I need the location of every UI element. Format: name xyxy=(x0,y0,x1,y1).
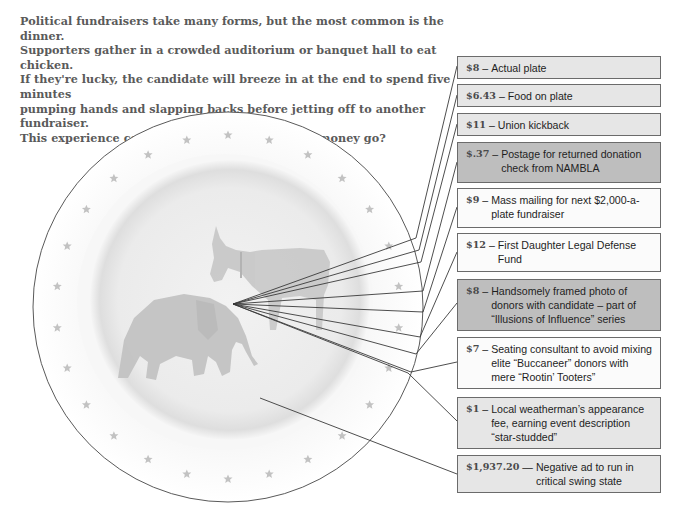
cost-description: Union kickback xyxy=(498,118,654,132)
cost-item-box: $.37 – Postage for returned donation che… xyxy=(457,142,661,183)
dash-separator: – xyxy=(479,193,491,221)
cost-item-row: $12 – First Daughter Legal Defense Fund xyxy=(466,238,654,266)
cost-item-box: $6.43 – Food on plate xyxy=(457,84,661,107)
cost-item-box: $1 – Local weatherman’s appearance fee, … xyxy=(457,397,661,449)
cost-amount: $1 xyxy=(466,402,479,445)
cost-item-box: $8 – Handsomely framed photo of donors w… xyxy=(457,279,661,331)
plate xyxy=(33,112,423,502)
cost-item-row: $6.43 – Food on plate xyxy=(466,89,654,103)
cost-amount: $7 xyxy=(466,342,479,385)
cost-item-row: $9 – Mass mailing for next $2,000-a-plat… xyxy=(466,193,654,221)
dash-separator: – xyxy=(479,342,491,385)
cost-item-box: $8 – Actual plate xyxy=(457,56,661,79)
cost-description: Postage for returned donation check from… xyxy=(501,147,654,175)
dash-separator: – xyxy=(479,402,491,445)
cost-item-box: $11 – Union kickback xyxy=(457,113,661,136)
dash-separator: – xyxy=(496,89,508,103)
cost-description: Local weatherman’s appearance fee, earni… xyxy=(491,402,654,445)
cost-description: Seating consultant to avoid mixing elite… xyxy=(491,342,654,385)
cost-item-box: $1,937.20 — Negative ad to run in critic… xyxy=(457,455,661,493)
cost-amount: $9 xyxy=(466,193,479,221)
cost-item-box: $7 – Seating consultant to avoid mixing … xyxy=(457,337,661,389)
dash-separator: – xyxy=(486,118,498,132)
cost-description: Actual plate xyxy=(491,61,654,75)
dash-separator: – xyxy=(489,147,501,175)
cost-item-box: $9 – Mass mailing for next $2,000-a-plat… xyxy=(457,188,661,228)
cost-description: Handsomely framed photo of donors with c… xyxy=(491,284,654,327)
dash-separator: – xyxy=(486,238,498,266)
cost-amount: $12 xyxy=(466,238,486,266)
cost-item-row: $8 – Actual plate xyxy=(466,61,654,75)
cost-item-row: $7 – Seating consultant to avoid mixing … xyxy=(466,342,654,385)
cost-description: Negative ad to run in critical swing sta… xyxy=(536,460,654,488)
dash-separator: – xyxy=(479,61,491,75)
cost-item-row: $.37 – Postage for returned donation che… xyxy=(466,147,654,175)
cost-amount: $6.43 xyxy=(466,89,496,103)
dash-separator: – xyxy=(479,284,491,327)
cost-amount: $.37 xyxy=(466,147,489,175)
cost-amount: $1,937.20 xyxy=(466,460,519,488)
cost-item-row: $1,937.20 — Negative ad to run in critic… xyxy=(466,460,654,488)
cost-description: Mass mailing for next $2,000-a-plate fun… xyxy=(491,193,654,221)
cost-description: First Daughter Legal Defense Fund xyxy=(498,238,654,266)
cost-amount: $8 xyxy=(466,61,479,75)
cost-item-row: $11 – Union kickback xyxy=(466,118,654,132)
cost-item-box: $12 – First Daughter Legal Defense Fund xyxy=(457,233,661,272)
plate-well xyxy=(90,160,370,440)
cost-item-row: $1 – Local weatherman’s appearance fee, … xyxy=(466,402,654,445)
cost-description: Food on plate xyxy=(508,89,654,103)
cost-amount: $8 xyxy=(466,284,479,327)
dash-separator: — xyxy=(519,460,535,488)
cost-amount: $11 xyxy=(466,118,486,132)
cost-item-row: $8 – Handsomely framed photo of donors w… xyxy=(466,284,654,327)
